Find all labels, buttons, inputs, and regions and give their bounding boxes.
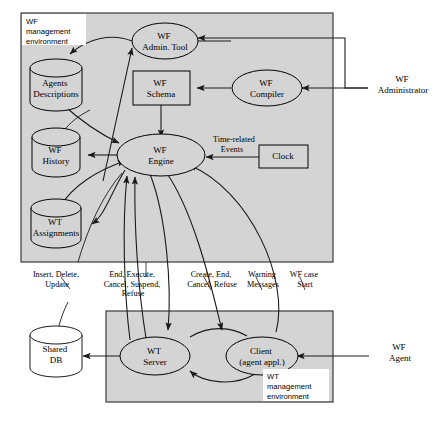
edge-label-create-end-cancel-refuse: Create, End, Cancel, Refuse: [187, 270, 237, 289]
edge-label-warning-messages: Warning Messages: [247, 270, 279, 289]
edge-label-wf-case-start: WF case Start: [290, 270, 320, 289]
diagram-canvas: WF Admin. Tool WF Schema WF Compiler Age…: [0, 0, 441, 421]
node-label-clock: Clock: [272, 151, 294, 161]
actor-label-wf-administrator: WF Administrator: [378, 74, 429, 95]
edge-label-insert-delete-update: Insert, Delete, Update: [33, 270, 81, 289]
workflow-architecture-diagram: WF Admin. Tool WF Schema WF Compiler Age…: [0, 0, 441, 421]
edge-label-end-execute-cancel-suspend-refuse: End, Execute, Cancel, Suspend, Refuse: [104, 270, 163, 298]
actor-label-wf-agent: WF Agent: [389, 342, 411, 363]
